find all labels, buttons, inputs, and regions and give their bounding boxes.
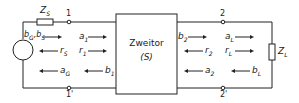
wave-a-g: aG [60, 66, 70, 77]
source-impedance-label: ZS [40, 6, 50, 17]
wave-a-2: a2 [205, 66, 214, 77]
wave-r-l: rL [225, 46, 232, 57]
terminal-2 [221, 20, 225, 24]
wave-b-2: b2 [178, 32, 188, 43]
terminal-1 [67, 20, 71, 24]
twoport-label: Zweitor(S) [116, 37, 177, 64]
terminal-1p-label: 1' [66, 91, 73, 99]
terminal-2-label: 2 [220, 10, 225, 18]
wave-a-1: a1 [79, 32, 88, 43]
wave-a-l: aL [225, 32, 234, 43]
load-impedance-label: ZL [278, 47, 288, 58]
terminal-1-label: 1 [66, 10, 71, 18]
wave-r-s: rS [60, 46, 68, 57]
source-wave-label: bG,bS [24, 31, 45, 41]
two-port-diagram: ZS 1 1' 2 2' bG,bS rS aG a1 r1 b1 Zweito… [0, 0, 299, 103]
wave-b-1: b1 [105, 66, 115, 77]
load-impedance [269, 44, 275, 60]
wave-r-2: r2 [205, 46, 213, 57]
source-icon [13, 40, 33, 60]
wave-b-l: bL [252, 66, 261, 77]
terminal-2p-label: 2' [220, 91, 227, 99]
wave-r-1: r1 [79, 46, 87, 57]
source-impedance [37, 19, 53, 25]
